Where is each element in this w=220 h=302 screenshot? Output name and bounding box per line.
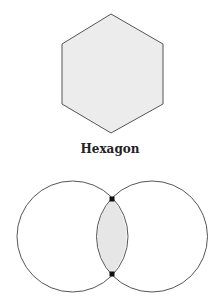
intersection-point-top <box>110 197 115 202</box>
hexagon-shape <box>62 14 163 133</box>
hexagon-label: Hexagon <box>0 142 220 156</box>
intersection-point-bottom <box>110 272 115 277</box>
lens-intersection <box>97 199 126 274</box>
